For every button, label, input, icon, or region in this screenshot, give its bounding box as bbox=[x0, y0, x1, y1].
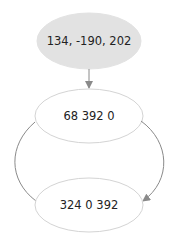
node-2-label: 68 392 0 bbox=[63, 109, 114, 123]
edge-n2-n3-left bbox=[15, 122, 36, 201]
node-3-label: 324 0 392 bbox=[60, 198, 119, 212]
node-1-label: 134, -190, 202 bbox=[47, 34, 132, 48]
edge-n2-n3-right bbox=[141, 121, 164, 201]
